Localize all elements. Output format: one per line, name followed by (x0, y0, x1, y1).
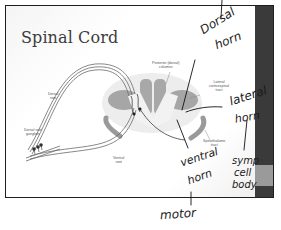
spinal-cord-cross-section (102, 73, 204, 138)
label-ventral-root: Ventral root (113, 156, 124, 164)
spinothalamic-tract-shape (191, 118, 204, 138)
label-lateral-corticospinal-tract: Lateral corticospinal tract (209, 80, 229, 93)
annotation-symp-cell-body: symp cell body (232, 155, 259, 191)
label-dorsal-root: Dorsal root (48, 92, 58, 100)
label-dorsal-root-ganglion: Dorsal root ganglion (24, 128, 42, 136)
annotation-motor: motor (160, 207, 197, 221)
label-posterior-columns: Posterior (dorsal) columns (152, 61, 180, 69)
